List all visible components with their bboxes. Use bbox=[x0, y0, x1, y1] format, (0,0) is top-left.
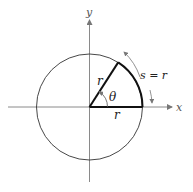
diagram-canvas: x y r r θ s = r bbox=[0, 0, 193, 192]
radian-diagram: x y r r θ s = r bbox=[0, 0, 193, 192]
angle-arc-icon bbox=[99, 92, 107, 107]
theta-label: θ bbox=[109, 90, 117, 104]
x-axis-label: x bbox=[176, 101, 183, 114]
y-axis-label: y bbox=[85, 6, 93, 19]
initial-radius-label: r bbox=[114, 108, 121, 122]
arc-length-arrow-lower bbox=[150, 90, 152, 103]
arc-length-arrow-upper bbox=[124, 52, 140, 77]
arc-s bbox=[118, 62, 142, 107]
arc-length-label: s = r bbox=[140, 69, 168, 82]
